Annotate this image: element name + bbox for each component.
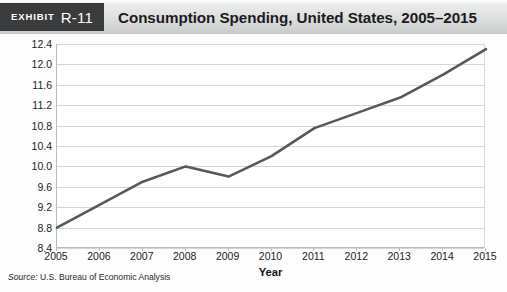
x-tick-label: 2014: [419, 251, 465, 262]
y-tick-label: 9.6: [2, 182, 52, 193]
source-text: U.S. Bureau of Economic Analysis: [38, 272, 171, 282]
x-tick-label: 2011: [290, 251, 336, 262]
source-label: Source:: [8, 272, 38, 282]
line-series-svg: [57, 44, 486, 248]
y-tick-label: 11.6: [2, 80, 52, 91]
consumption-spending-line: [57, 49, 486, 228]
x-tick-label: 2013: [376, 251, 422, 262]
x-tick-label: 2006: [76, 251, 122, 262]
x-tick-label: 2012: [333, 251, 379, 262]
y-axis-title: Trillions of Dollars: [0, 0, 12, 44]
exhibit-number: R-11: [61, 10, 93, 25]
x-tick-label: 2010: [248, 251, 294, 262]
header-band: Exhibit R-11 Consumption Spending, Unite…: [0, 0, 507, 34]
y-tick-label: 10.4: [2, 141, 52, 152]
y-tick-label: 9.2: [2, 202, 52, 213]
y-tick-label: 10.0: [2, 161, 52, 172]
chart-title: Consumption Spending, United States, 200…: [118, 0, 477, 34]
x-tick-label: 2009: [205, 251, 251, 262]
exhibit-label: Exhibit: [11, 12, 55, 22]
y-axis-title-text: Trillions of Dollars: [0, 0, 8, 44]
y-tick-label: 11.2: [2, 100, 52, 111]
y-tick-label: 8.8: [2, 222, 52, 233]
y-tick-label: 12.4: [2, 39, 52, 50]
x-tick-label: 2005: [33, 251, 79, 262]
plot-area: [56, 44, 485, 248]
x-tick-label: 2008: [162, 251, 208, 262]
x-tick-label: 2007: [119, 251, 165, 262]
source-note: Source: U.S. Bureau of Economic Analysis: [8, 272, 170, 282]
x-tick-label: 2015: [462, 251, 507, 262]
exhibit-tag: Exhibit R-11: [0, 3, 104, 31]
exhibit-figure: Exhibit R-11 Consumption Spending, Unite…: [0, 0, 507, 292]
y-tick-label: 12.0: [2, 59, 52, 70]
y-tick-label: 10.8: [2, 120, 52, 131]
